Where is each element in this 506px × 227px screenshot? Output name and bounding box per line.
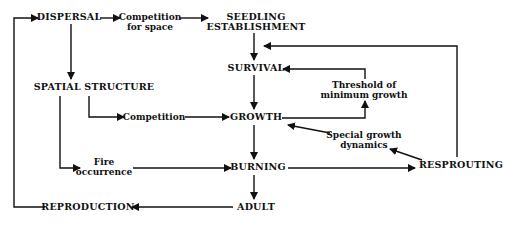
node-threshold-minimum-growth: Threshold of minimum growth	[320, 80, 407, 100]
node-competition: Competition	[123, 112, 185, 122]
node-label: ADULT	[237, 202, 275, 212]
node-survival: SURVIVAL	[228, 63, 285, 73]
node-label-line2: minimum growth	[320, 90, 407, 100]
node-label-line1: Special growth	[326, 130, 401, 140]
edge-growth-threshold	[282, 101, 365, 118]
node-reproduction: REPRODUCTION	[41, 202, 134, 212]
node-burning: BURNING	[230, 162, 286, 172]
node-label: REPRODUCTION	[41, 202, 134, 212]
node-label: Competition	[123, 112, 185, 122]
node-special-growth-dynamics: Special growth dynamics	[326, 130, 401, 150]
node-label: BURNING	[230, 162, 286, 172]
node-competition-for-space: Competition for space	[119, 12, 181, 32]
node-label-line1: Fire	[76, 157, 132, 167]
edge-spatial-competition	[89, 96, 124, 117]
node-dispersal: DISPERSAL	[37, 12, 102, 22]
node-adult: ADULT	[237, 202, 275, 212]
node-label: SPATIAL STRUCTURE	[34, 82, 155, 92]
node-spatial-structure: SPATIAL STRUCTURE	[34, 82, 155, 92]
node-label: SURVIVAL	[228, 63, 285, 73]
node-label: DISPERSAL	[37, 12, 102, 22]
node-resprouting: RESPROUTING	[419, 160, 503, 170]
node-label-line1: Threshold of	[320, 80, 407, 90]
node-fire-occurrence: Fire occurrence	[76, 157, 132, 177]
node-label-line2: for space	[119, 22, 181, 32]
node-label: GROWTH	[230, 112, 282, 122]
edge-threshold-survival	[283, 69, 365, 79]
node-label-line1: Competition	[119, 12, 181, 22]
edge-reproduction-dispersal	[14, 18, 45, 207]
node-label: RESPROUTING	[419, 160, 503, 170]
node-seedling-establishment: SEEDLING ESTABLISHMENT	[206, 12, 305, 32]
node-label-line2: ESTABLISHMENT	[206, 22, 305, 32]
edge-resprouting-special	[390, 149, 422, 160]
node-growth: GROWTH	[230, 112, 282, 122]
node-label-line2: occurrence	[76, 167, 132, 177]
edge-special-growth	[288, 125, 330, 133]
node-label-line2: dynamics	[326, 140, 401, 150]
life-cycle-diagram: DISPERSAL Competition for space SEEDLING…	[0, 0, 506, 227]
